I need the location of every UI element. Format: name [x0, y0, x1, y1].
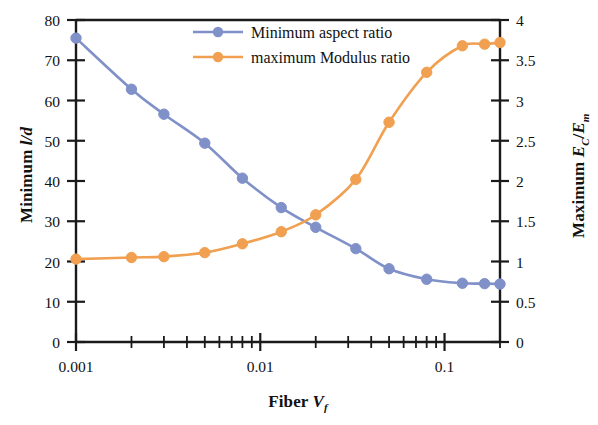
- data-point-marker: [311, 222, 321, 232]
- data-point-marker: [495, 279, 505, 289]
- x-axis-ticks: 0.0010.010.1: [59, 333, 500, 375]
- data-point-marker: [351, 243, 361, 253]
- y-axis-right-title-var1: E: [569, 146, 588, 157]
- data-point-marker: [71, 254, 81, 264]
- series-line: [76, 38, 500, 284]
- data-point-marker: [384, 117, 394, 127]
- legend-entry: maximum Modulus ratio: [193, 49, 410, 66]
- legend-label: maximum Modulus ratio: [251, 49, 410, 66]
- y-tick-label-left: 30: [45, 213, 61, 230]
- y-tick-label-left: 60: [45, 93, 61, 110]
- data-point-marker: [384, 264, 394, 274]
- data-point-marker: [479, 39, 489, 49]
- series-1: [71, 33, 505, 289]
- data-point-marker: [126, 84, 136, 94]
- x-axis-title: Fiber Vf: [228, 392, 368, 413]
- data-point-marker: [479, 278, 489, 288]
- data-point-marker: [351, 174, 361, 184]
- y-tick-label-right: 4: [516, 12, 524, 29]
- chart-figure: 0.0010.010.1 01020304050607080 00.511.52…: [0, 0, 598, 425]
- data-point-marker: [237, 173, 247, 183]
- y-tick-label-left: 50: [45, 133, 61, 150]
- y-tick-label-right: 3: [516, 93, 524, 110]
- x-axis-title-var: V: [312, 392, 323, 411]
- data-point-marker: [200, 138, 210, 148]
- plot-canvas: 0.0010.010.1 01020304050607080 00.511.52…: [0, 0, 598, 425]
- legend-entry: Minimum aspect ratio: [193, 24, 392, 42]
- chart-legend: Minimum aspect ratiomaximum Modulus rati…: [193, 24, 410, 66]
- data-series-group: [71, 33, 505, 289]
- data-point-marker: [200, 247, 210, 257]
- axes-group: [76, 20, 500, 342]
- y-tick-label-left: 20: [45, 254, 61, 271]
- y-tick-label-left: 70: [45, 52, 61, 69]
- data-point-marker: [276, 202, 286, 212]
- y-tick-label-left: 0: [52, 334, 60, 351]
- y-axis-left-title-text: Minimum: [17, 145, 36, 223]
- y-tick-label-left: 80: [45, 12, 61, 29]
- series-line: [76, 43, 500, 260]
- y-tick-label-right: 3.5: [516, 52, 536, 69]
- data-point-marker: [457, 41, 467, 51]
- y-tick-label-right: 2.5: [516, 133, 536, 150]
- y-axis-left-title-var: l/d: [17, 127, 36, 145]
- x-tick-label: 0.001: [59, 358, 94, 375]
- y-axis-left-ticks: 01020304050607080: [45, 12, 86, 351]
- x-tick-label: 0.1: [435, 358, 454, 375]
- data-point-marker: [276, 227, 286, 237]
- y-axis-right-title: Maximum EC/Em: [569, 96, 590, 256]
- x-axis-title-text: Fiber: [268, 392, 312, 411]
- data-point-marker: [457, 278, 467, 288]
- y-axis-right-title-var2: E: [569, 122, 588, 133]
- y-axis-right-title-text: Maximum: [569, 157, 588, 238]
- y-axis-right-ticks: 00.511.522.533.54: [491, 12, 536, 351]
- data-point-marker: [126, 252, 136, 262]
- y-axis-right-title-sub1: C: [579, 138, 591, 145]
- legend-marker: [213, 52, 223, 62]
- y-tick-label-left: 10: [45, 294, 61, 311]
- data-point-marker: [311, 210, 321, 220]
- data-point-marker: [421, 274, 431, 284]
- data-point-marker: [71, 33, 81, 43]
- y-axis-right-title-slash: /: [569, 134, 588, 139]
- x-tick-label: 0.01: [247, 358, 274, 375]
- legend-marker: [213, 27, 223, 37]
- data-point-marker: [159, 109, 169, 119]
- series-2: [71, 37, 505, 264]
- y-tick-label-left: 40: [45, 173, 61, 190]
- y-tick-label-right: 1.5: [516, 213, 536, 230]
- y-tick-label-right: 1: [516, 254, 524, 271]
- legend-label: Minimum aspect ratio: [251, 24, 392, 42]
- y-axis-left-title: Minimum l/d: [17, 100, 37, 250]
- y-tick-label-right: 2: [516, 173, 524, 190]
- y-axis-right-title-sub2: m: [579, 113, 591, 122]
- data-point-marker: [421, 67, 431, 77]
- y-tick-label-right: 0: [516, 334, 524, 351]
- y-tick-label-right: 0.5: [516, 294, 536, 311]
- data-point-marker: [159, 251, 169, 261]
- data-point-marker: [237, 239, 247, 249]
- data-point-marker: [495, 37, 505, 47]
- x-axis-title-sub: f: [324, 401, 328, 413]
